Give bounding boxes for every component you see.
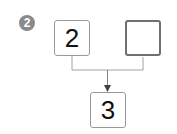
right-answer-box[interactable] — [125, 20, 161, 56]
result-number-box: 3 — [90, 92, 126, 128]
step-number-badge: 2 — [19, 15, 35, 31]
left-number-box: 2 — [54, 20, 90, 56]
arrow-down-icon — [104, 85, 111, 92]
